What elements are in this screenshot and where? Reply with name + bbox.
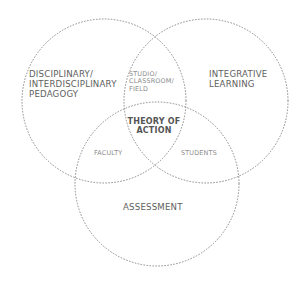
label-faculty: FACULTY xyxy=(94,150,122,157)
label-studio-classroom-field: STUDIO/ CLASSROOM/ FIELD xyxy=(129,71,174,93)
label-theory-of-action: THEORY OF ACTION xyxy=(126,117,182,135)
label-integrative-learning: INTEGRATIVE LEARNING xyxy=(209,70,267,90)
label-students: STUDENTS xyxy=(181,150,217,157)
label-disciplinary-pedagogy: DISCIPLINARY/ INTERDISCIPLINARY PEDAGOGY xyxy=(29,70,117,100)
label-assessment: ASSESSMENT xyxy=(123,203,183,213)
venn-diagram xyxy=(0,0,304,297)
circle-disciplinary-pedagogy xyxy=(22,19,186,183)
circle-integrative-learning xyxy=(124,19,288,183)
